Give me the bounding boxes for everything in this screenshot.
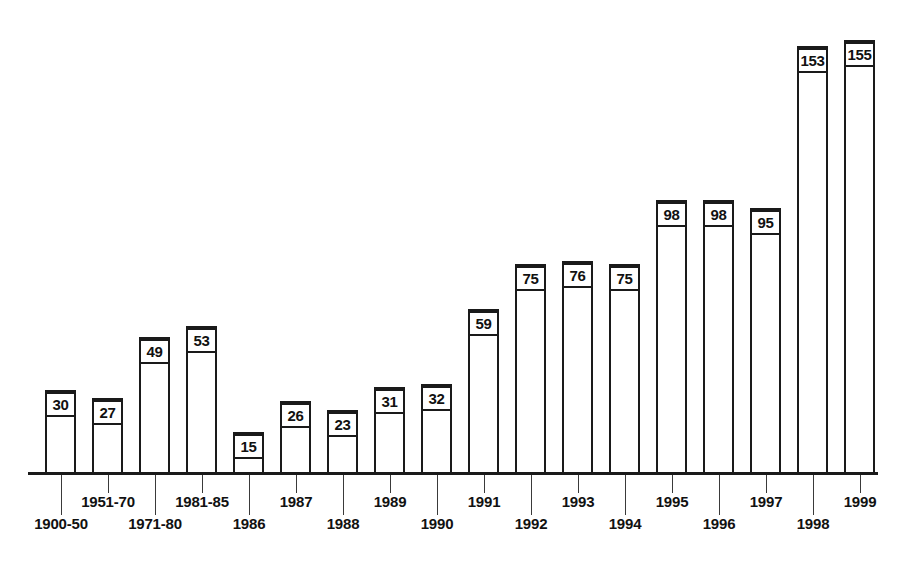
bar: 75 [515,264,546,474]
x-axis-tick [531,475,532,515]
x-axis-tick [578,475,579,493]
bar: 30 [45,390,76,474]
x-axis-label: 1990 [392,515,482,532]
bar-value-label: 31 [374,389,405,414]
bar-value-label: 27 [92,400,123,425]
bar-group: 155 [844,40,875,474]
bar-value-label: 15 [233,434,264,459]
bar-value-label: 49 [139,339,170,364]
bar: 53 [186,326,217,474]
x-axis-label: 1971-80 [110,515,200,532]
x-axis-label: 1986 [204,515,294,532]
bar: 59 [468,309,499,474]
bar: 23 [327,410,358,474]
bar-value-label: 155 [844,42,875,67]
bar: 155 [844,40,875,474]
bar-value-label: 98 [656,202,687,227]
x-axis-tick-layer: 1900-501951-701971-801981-85198619871988… [33,475,878,545]
bar-value-label: 75 [515,266,546,291]
x-axis-label: 1995 [627,493,717,510]
bar-group: 23 [327,410,358,474]
x-axis-tick [343,475,344,515]
bar-group: 15 [233,432,264,474]
bar-value-label: 32 [421,386,452,411]
bar: 76 [562,261,593,474]
bar: 31 [374,387,405,474]
x-axis-tick [813,475,814,515]
x-axis-label: 1981-85 [157,493,247,510]
x-axis-tick [437,475,438,515]
bar: 26 [280,401,311,474]
bar-value-label: 53 [186,328,217,353]
x-axis-label: 1996 [674,515,764,532]
bar-group: 59 [468,309,499,474]
bar-group: 26 [280,401,311,474]
bar-value-label: 23 [327,412,358,437]
bar-value-label: 26 [280,403,311,428]
bar-chart: 30274953152623313259757675989895153155 1… [0,0,904,568]
bar-group: 30 [45,390,76,474]
plot-area: 30274953152623313259757675989895153155 [33,20,878,474]
x-axis-tick [484,475,485,493]
x-axis-tick [719,475,720,515]
bar-group: 98 [656,200,687,474]
bar-group: 53 [186,326,217,474]
bar-group: 32 [421,384,452,474]
bar-group: 76 [562,261,593,474]
bar: 153 [797,46,828,474]
bar-value-label: 95 [750,210,781,235]
x-axis-tick [108,475,109,493]
bar: 95 [750,208,781,474]
bar: 32 [421,384,452,474]
x-axis-tick [860,475,861,493]
bar-group: 27 [92,398,123,474]
x-axis-tick [249,475,250,515]
x-axis-label: 1992 [486,515,576,532]
x-axis-tick [155,475,156,515]
x-axis-tick [672,475,673,493]
bar-value-label: 98 [703,202,734,227]
x-axis-label: 1993 [533,493,623,510]
bar-value-label: 76 [562,263,593,288]
bar-group: 153 [797,46,828,474]
x-axis-label: 1988 [298,515,388,532]
x-axis-tick [296,475,297,493]
bar-group: 31 [374,387,405,474]
x-axis-label: 1991 [439,493,529,510]
bar-group: 98 [703,200,734,474]
x-axis-label: 1997 [721,493,811,510]
bar-value-label: 30 [45,392,76,417]
bar: 98 [703,200,734,474]
bar: 75 [609,264,640,474]
x-axis-tick [625,475,626,515]
bar-value-label: 59 [468,311,499,336]
x-axis-label: 1987 [251,493,341,510]
x-axis-label: 1998 [768,515,858,532]
bar-value-label: 75 [609,266,640,291]
x-axis-label: 1999 [815,493,904,510]
bar-group: 75 [515,264,546,474]
x-axis-tick [61,475,62,515]
x-axis-tick [766,475,767,493]
x-axis-label: 1900-50 [16,515,106,532]
bar-group: 49 [139,337,170,474]
bar: 27 [92,398,123,474]
x-axis-tick [202,475,203,493]
x-axis-label: 1989 [345,493,435,510]
bar: 98 [656,200,687,474]
x-axis-tick [390,475,391,493]
bar-value-label: 153 [797,48,828,73]
bar-group: 75 [609,264,640,474]
x-axis-label: 1951-70 [63,493,153,510]
bar: 49 [139,337,170,474]
bar-group: 95 [750,208,781,474]
bar: 15 [233,432,264,474]
x-axis-label: 1994 [580,515,670,532]
